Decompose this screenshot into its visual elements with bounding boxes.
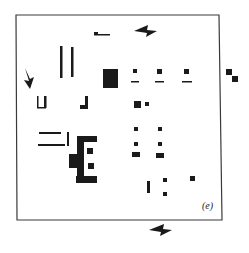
figure-frame bbox=[16, 15, 222, 220]
side-mark-2 bbox=[232, 76, 238, 82]
vertical-bar-right bbox=[71, 47, 74, 77]
pad-2-line bbox=[155, 81, 164, 83]
lone-vertical-bar bbox=[147, 181, 150, 193]
comb-block-left bbox=[69, 154, 79, 168]
grid-pad-r3c1 bbox=[132, 152, 140, 157]
lone-pad-1 bbox=[163, 178, 167, 182]
grid-pad-r2c1 bbox=[134, 142, 138, 146]
bracket-right-tick bbox=[67, 132, 69, 146]
bracket-top-bar bbox=[39, 132, 61, 134]
mask-layout-drawing bbox=[0, 0, 249, 253]
lone-pad-3 bbox=[190, 176, 195, 181]
alignment-mark-left-icon bbox=[24, 68, 34, 89]
pad-3-line bbox=[182, 81, 192, 83]
side-mark-1 bbox=[226, 69, 232, 75]
grid-pad-r3c2 bbox=[156, 153, 164, 158]
u-shape-left-arm bbox=[37, 96, 39, 108]
comb-pad-2 bbox=[88, 163, 94, 169]
pad-2-square bbox=[157, 69, 162, 74]
comb-bottom bbox=[76, 176, 97, 183]
grid-pad-r2c2 bbox=[158, 142, 162, 146]
pad-3-square bbox=[184, 69, 189, 74]
panel-label: (e) bbox=[202, 200, 213, 211]
cup-block-dot bbox=[108, 69, 111, 72]
alignment-mark-bottom-icon bbox=[149, 224, 172, 236]
grid-pad-r1c1 bbox=[134, 127, 138, 131]
alignment-mark-top-icon bbox=[134, 25, 157, 37]
mask-layout-figure: (e) bbox=[0, 0, 249, 253]
top-dash-line bbox=[94, 34, 110, 36]
pad-1-square bbox=[133, 69, 137, 73]
u-shape-bottom bbox=[37, 107, 46, 109]
grid-pad-r1c2 bbox=[158, 127, 162, 131]
bracket-bottom-bar bbox=[38, 144, 65, 146]
via-large bbox=[134, 101, 141, 108]
l-shape-foot bbox=[80, 105, 88, 109]
lone-pad-2 bbox=[163, 192, 167, 196]
comb-pad-1 bbox=[87, 148, 93, 154]
via-small bbox=[145, 102, 149, 106]
pad-1-line bbox=[131, 81, 139, 83]
u-shape-right-arm bbox=[44, 96, 47, 108]
vertical-bar-left bbox=[60, 46, 63, 78]
